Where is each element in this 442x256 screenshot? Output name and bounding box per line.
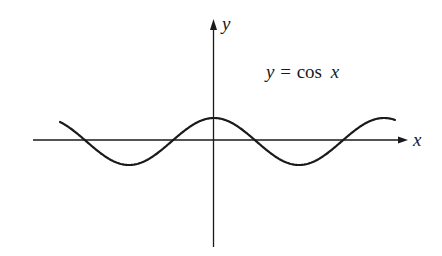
equation-label: y = cos x — [264, 61, 340, 82]
y-axis-arrow-icon — [210, 19, 217, 30]
x-axis-arrow-icon — [398, 137, 408, 144]
equation-function: cos — [297, 61, 322, 82]
equation-equals: = — [280, 61, 291, 82]
cosine-graph: y x y = cos x — [0, 0, 442, 256]
equation-lhs: y — [264, 61, 275, 82]
cosine-curve — [60, 118, 395, 165]
y-axis-label: y — [220, 13, 231, 34]
x-axis-label: x — [412, 129, 422, 150]
equation-argument: x — [330, 61, 340, 82]
